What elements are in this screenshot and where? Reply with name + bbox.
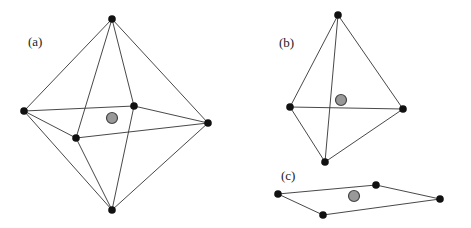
ligand-vertex: [321, 158, 329, 166]
bond-edge: [290, 107, 325, 162]
panel-c: (c): [274, 168, 444, 219]
bond-edge: [76, 123, 208, 138]
bond-edge: [278, 194, 323, 215]
bond-edge: [376, 185, 440, 199]
coordination-geometry-figure: (a) (b) (c): [0, 0, 471, 228]
ligand-vertex: [436, 195, 444, 203]
bond-edge: [76, 138, 112, 210]
bond-edge: [278, 185, 376, 194]
central-atom: [107, 113, 118, 124]
panel-b: (b): [279, 11, 407, 166]
ligand-vertex: [286, 103, 294, 111]
bond-edge: [24, 106, 134, 111]
bond-edge: [325, 109, 403, 162]
ligand-vertex: [72, 134, 80, 142]
bond-edge: [112, 123, 208, 210]
bond-edge: [323, 199, 440, 215]
ligand-vertex: [274, 190, 282, 198]
bond-edge: [290, 107, 403, 109]
ligand-vertex: [372, 181, 380, 189]
ligand-vertex: [399, 105, 407, 113]
ligand-vertex: [108, 206, 116, 214]
bond-edge: [134, 106, 208, 123]
ligand-vertex: [130, 102, 138, 110]
ligand-vertex: [108, 15, 116, 23]
panel-label-b: (b): [279, 35, 294, 50]
bond-edge: [112, 19, 134, 106]
ligand-vertex: [319, 211, 327, 219]
ligand-vertex: [20, 107, 28, 115]
panel-a: (a): [20, 15, 212, 214]
bond-edge: [112, 19, 208, 123]
panel-label-a: (a): [28, 34, 42, 49]
bond-edge: [24, 111, 112, 210]
ligand-vertex: [334, 11, 342, 19]
ligand-vertex: [204, 119, 212, 127]
panel-label-c: (c): [281, 168, 295, 183]
central-atom: [349, 191, 360, 202]
bond-edge: [24, 111, 76, 138]
bond-edge: [338, 15, 403, 109]
central-atom: [336, 95, 347, 106]
bond-edge: [24, 19, 112, 111]
